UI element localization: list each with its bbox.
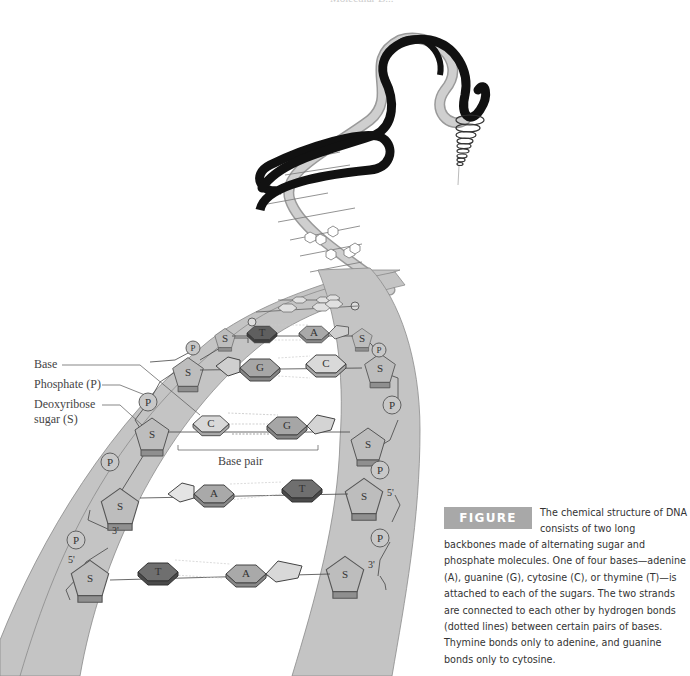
sugar-label: S: [361, 490, 367, 502]
prime-label-5-left: 5': [68, 554, 75, 565]
label-base-pair: Base pair: [218, 454, 263, 468]
base-label-adenine: A: [242, 567, 250, 579]
phosphate-label: P: [145, 396, 151, 408]
label-phosphate: Phosphate (P): [34, 377, 101, 391]
phosphate-label: P: [376, 345, 381, 355]
prime-label-5-right: 5': [387, 487, 394, 498]
base-label-thymine: T: [259, 326, 266, 338]
base-label-cytosine: C: [322, 357, 329, 369]
caption-body: backbones made of alternating sugar and …: [444, 537, 690, 668]
sugar-label: S: [222, 332, 228, 344]
phosphate-label: P: [377, 464, 383, 476]
double-helix-ribbon: [260, 38, 486, 290]
base-label-guanine: G: [256, 361, 264, 373]
prime-label-3-right: 3': [368, 559, 375, 570]
label-deoxyribose-1: Deoxyribose: [34, 397, 95, 411]
phosphate-label: P: [107, 456, 113, 468]
base-label-thymine: T: [155, 565, 162, 577]
base-pair-5: [110, 560, 330, 587]
phosphate-label: P: [190, 343, 195, 353]
prime-label-3-left: 3': [112, 525, 119, 536]
sugar-label: S: [365, 438, 371, 450]
sugar-label: S: [117, 500, 123, 512]
phosphate-label: P: [389, 399, 395, 411]
base-pair-3: [168, 413, 350, 439]
base-label-guanine: G: [283, 419, 291, 431]
phosphate-label: P: [377, 532, 383, 544]
base-label-adenine: A: [210, 487, 218, 499]
sugar-label: S: [87, 572, 93, 584]
sugar-label: S: [359, 332, 365, 344]
sugar-label: S: [377, 362, 383, 374]
base-label-cytosine: C: [207, 417, 214, 429]
figure-number-badge: FIGURE 2.16: [444, 507, 532, 529]
sugar-label: S: [185, 366, 191, 378]
sugar-label: S: [149, 428, 155, 440]
label-deoxyribose-2: sugar (S): [34, 412, 78, 426]
label-base: Base: [34, 357, 57, 371]
base-label-thymine: T: [299, 482, 306, 494]
base-label-adenine: A: [310, 326, 318, 338]
sugar-label: S: [342, 568, 348, 580]
phosphate-label: P: [73, 534, 79, 546]
base-pair-4: [140, 480, 348, 507]
caption-first-line: The chemical structure of DNA consists o…: [540, 505, 690, 537]
